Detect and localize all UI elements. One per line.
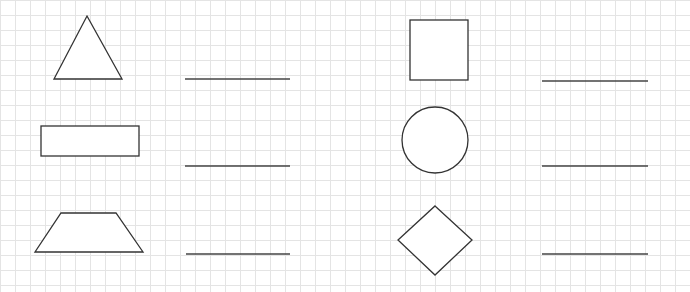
rectangle-shape <box>41 126 139 156</box>
circle-shape <box>402 107 468 173</box>
square-shape <box>410 20 468 80</box>
shapes-canvas <box>0 0 690 292</box>
triangle-shape <box>54 16 122 79</box>
diamond-shape <box>398 206 472 275</box>
grid-paper-worksheet <box>0 0 690 292</box>
trapezoid-shape <box>35 213 143 252</box>
